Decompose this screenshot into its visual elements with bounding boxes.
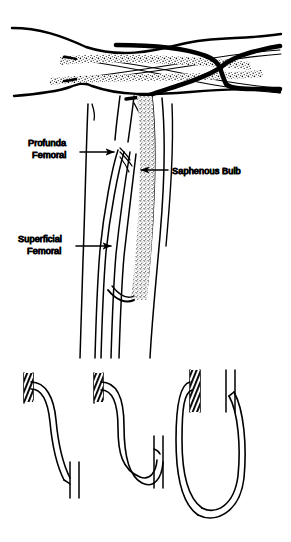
figure-canvas: Profunda Femoral Saphenous Bulb Superfic… bbox=[0, 0, 291, 542]
profunda-femoral-label-line1: Profunda bbox=[28, 138, 67, 148]
graft1-donor-hatching bbox=[24, 373, 33, 402]
graft2-donor-hatching bbox=[94, 373, 103, 402]
superficial-femoral-label-line2: Femoral bbox=[27, 246, 61, 256]
saphenous-bulb-label: Saphenous Bulb bbox=[172, 166, 241, 176]
anatomical-figure: Profunda Femoral Saphenous Bulb Superfic… bbox=[0, 0, 291, 542]
superficial-femoral-label-line1: Superficial bbox=[18, 234, 62, 244]
profunda-femoral-label-line2: Femoral bbox=[32, 150, 66, 160]
